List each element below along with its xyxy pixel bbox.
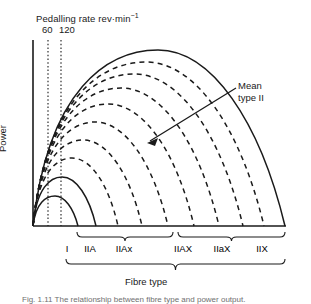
- fibre-type-label-3: IIAX: [174, 243, 192, 254]
- pedalling-rate-exponent: −1: [131, 12, 139, 19]
- full-brace: [66, 259, 285, 270]
- fibre-type-label-2: IIAx: [116, 243, 132, 254]
- curve-type-IIX-outermost: [33, 50, 285, 226]
- fibre-type-label-4: IIaX: [214, 243, 231, 254]
- left-brace: [77, 232, 173, 241]
- plot-svg: [0, 0, 311, 304]
- y-axis-label: Power: [0, 125, 8, 152]
- annotation-mean-line2: type II: [238, 92, 264, 103]
- pedalling-rate-title: Pedalling rate rev·min−1: [36, 12, 139, 24]
- right-brace: [178, 232, 285, 241]
- x-axis-label: Fibre type: [125, 276, 167, 287]
- figure-container: Pedalling rate rev·min−1 60 120 Power Me…: [0, 0, 311, 304]
- annotation-mean-line1: Mean: [238, 80, 262, 91]
- curve-curve-6: [33, 104, 194, 226]
- mean-type-ii-arrow: [147, 88, 236, 146]
- tick-label-120: 120: [59, 24, 75, 35]
- annotation-leader-line: [150, 88, 236, 141]
- curve-type-I-innermost: [33, 196, 78, 226]
- power-curves: [33, 50, 285, 226]
- axes: [33, 40, 286, 226]
- fibre-type-label-1: IIA: [84, 243, 96, 254]
- fibre-type-label-0: I: [66, 243, 69, 254]
- fibre-type-label-5: IIX: [256, 243, 268, 254]
- tick-label-60: 60: [42, 24, 53, 35]
- pedalling-rate-text: Pedalling rate rev·min: [36, 13, 131, 24]
- figure-caption: Fig. 1.11 The relationship between fibre…: [22, 295, 292, 304]
